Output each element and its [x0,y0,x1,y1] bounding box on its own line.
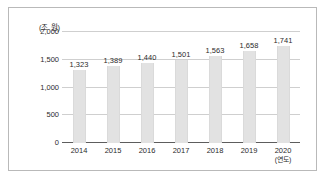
x-axis-tick-label: 2016 [139,146,156,155]
y-axis-tick-label: 0 [55,138,59,147]
x-axis-caption: (연도) [275,155,292,164]
chart-frame: (조 원) 05001,0001,5002,000 1,32320141,389… [8,7,317,171]
bar-value-label: 1,389 [104,56,123,65]
bar: 1,3892015 [107,66,120,143]
bar: 1,6582019 [243,51,256,143]
bar-value-label: 1,741 [274,36,293,45]
bar: 1,7412020(연도) [277,46,290,143]
bar: 1,3232014 [73,70,86,143]
bar-value-label: 1,658 [240,41,259,50]
y-axis-tick-label: 1,000 [40,82,59,91]
x-axis-tick-label: 2018 [207,146,224,155]
y-axis-tick-label: 500 [46,110,59,119]
gridline: 2,000 [62,31,300,32]
bar: 1,5632018 [209,56,222,143]
y-axis-tick-label: 2,000 [40,27,59,36]
x-axis-tick-label: 2015 [105,146,122,155]
bar-value-label: 1,323 [70,60,89,69]
bar-value-label: 1,563 [206,46,225,55]
bar-value-label: 1,501 [172,50,191,59]
x-axis-tick-label: 2014 [71,146,88,155]
bar-value-label: 1,440 [138,53,157,62]
plot-area: 05001,0001,5002,000 1,32320141,38920151,… [62,32,300,143]
x-axis-tick-label: 2019 [241,146,258,155]
bar: 1,4402016 [141,63,154,143]
x-axis-tick-label: 2020(연도) [275,146,292,164]
x-axis-tick-label: 2017 [173,146,190,155]
y-axis-tick-label: 1,500 [40,54,59,63]
bar: 1,5012017 [175,60,188,143]
